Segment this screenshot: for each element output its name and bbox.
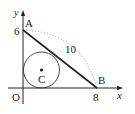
- segment-ab: [23, 30, 97, 88]
- point-b-label: B: [98, 74, 105, 86]
- length-ab-label: 10: [65, 43, 77, 55]
- point-a-coord-label: 6: [14, 25, 20, 37]
- y-axis-arrow-icon: [21, 10, 25, 16]
- x-axis: [8, 86, 123, 90]
- point-b-coord-label: 8: [93, 91, 99, 103]
- point-a-label: A: [25, 17, 33, 29]
- origin-label: O: [12, 91, 20, 103]
- center-point-c: [40, 69, 43, 72]
- geometry-diagram: y x O A 6 B 8 C 10: [0, 0, 135, 114]
- point-c-label: C: [38, 73, 45, 85]
- y-axis-label: y: [13, 7, 19, 18]
- x-axis-label: x: [116, 89, 122, 101]
